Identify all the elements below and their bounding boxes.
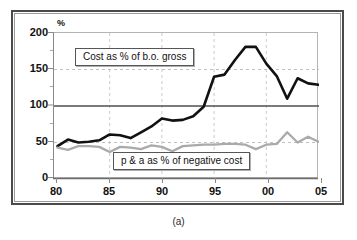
x-tick-label-90: 90 bbox=[147, 186, 177, 197]
x-tick-label-85: 85 bbox=[94, 186, 124, 197]
x-tick-label-80: 80 bbox=[41, 186, 71, 197]
x-tick-label-95: 95 bbox=[200, 186, 230, 197]
y-tick-label-200: 200 bbox=[14, 27, 48, 38]
y-tick-label-100: 100 bbox=[14, 99, 48, 110]
y-axis-unit-label: % bbox=[57, 18, 65, 28]
page-header-sliver bbox=[196, 1, 348, 6]
y-tick-label-0: 0 bbox=[14, 172, 48, 183]
x-tick-label-00: 00 bbox=[253, 186, 283, 197]
figure-root: % 200 150 100 50 0 80 85 90 95 00 05 bbox=[0, 0, 357, 240]
figure-caption: (a) bbox=[0, 216, 357, 227]
y-tick-label-50: 50 bbox=[14, 136, 48, 147]
series-label-pa: p & a as % of negative cost bbox=[113, 152, 250, 170]
x-tick-label-05: 05 bbox=[306, 186, 336, 197]
y-tick-label-150: 150 bbox=[14, 63, 48, 74]
series-label-cost: Cost as % of b.o. gross bbox=[75, 48, 194, 66]
